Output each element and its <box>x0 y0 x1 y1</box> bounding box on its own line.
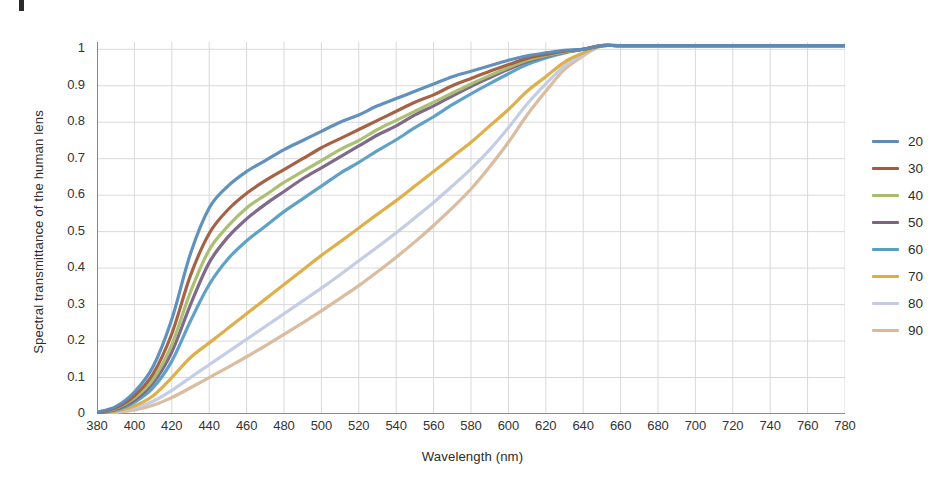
x-axis-title: Wavelength (nm) <box>95 449 850 464</box>
legend-item-80[interactable]: 80 <box>872 290 946 317</box>
y-tick-label: 0.5 <box>45 223 85 238</box>
legend-swatch-icon <box>872 302 899 305</box>
scan-artifact-mark <box>19 0 24 11</box>
plot-canvas <box>97 42 845 414</box>
legend-swatch-icon <box>872 275 899 278</box>
legend-label: 40 <box>908 188 923 203</box>
y-tick-label: 0.6 <box>45 186 85 201</box>
y-tick-label: 0.1 <box>45 369 85 384</box>
y-tick-label: 0.4 <box>45 259 85 274</box>
legend-swatch-icon <box>872 167 899 170</box>
x-tick-label: 780 <box>823 418 867 433</box>
grid-lines <box>97 42 845 414</box>
legend-label: 60 <box>908 242 923 257</box>
legend-item-90[interactable]: 90 <box>872 317 946 344</box>
legend-label: 80 <box>908 296 923 311</box>
legend-label: 90 <box>908 323 923 338</box>
legend-label: 50 <box>908 215 923 230</box>
y-tick-label: 0.2 <box>45 332 85 347</box>
plot-area <box>97 42 845 414</box>
legend-swatch-icon <box>872 221 899 224</box>
legend-item-40[interactable]: 40 <box>872 182 946 209</box>
y-tick-label: 0.8 <box>45 113 85 128</box>
legend-swatch-icon <box>872 329 899 332</box>
y-tick-label: 1 <box>45 40 85 55</box>
y-tick-label: 0.3 <box>45 296 85 311</box>
legend-swatch-icon <box>872 140 899 143</box>
legend-item-20[interactable]: 20 <box>872 128 946 155</box>
y-tick-label: 0.9 <box>45 77 85 92</box>
legend-item-50[interactable]: 50 <box>872 209 946 236</box>
legend-label: 30 <box>908 161 923 176</box>
legend-item-60[interactable]: 60 <box>872 236 946 263</box>
legend-item-70[interactable]: 70 <box>872 263 946 290</box>
y-tick-label: 0 <box>45 405 85 420</box>
legend-swatch-icon <box>872 248 899 251</box>
y-tick-label: 0.7 <box>45 150 85 165</box>
legend-label: 70 <box>908 269 923 284</box>
legend-label: 20 <box>908 134 923 149</box>
legend-swatch-icon <box>872 194 899 197</box>
figure-root: Spectral transmittance of the human lens… <box>0 0 952 488</box>
chart-legend: 2030405060708090 <box>872 128 946 344</box>
legend-item-30[interactable]: 30 <box>872 155 946 182</box>
